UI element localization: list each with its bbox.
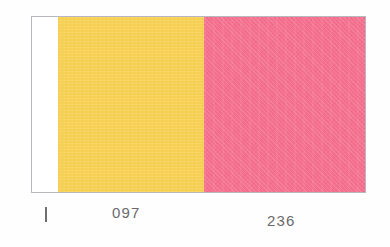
swatch-band-yellow[interactable] (58, 17, 204, 192)
swatch-blank-strip (32, 17, 58, 192)
swatch-label-236: 236 (267, 212, 295, 229)
swatch-box (31, 16, 366, 193)
axis-tick-mark (45, 207, 47, 222)
swatch-label-097: 097 (112, 204, 140, 221)
swatch-figure: 097 236 (0, 0, 390, 247)
swatch-band-pink[interactable] (204, 17, 365, 192)
